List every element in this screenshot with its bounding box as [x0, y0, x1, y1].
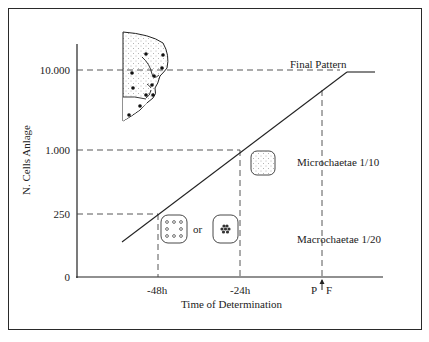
- reference-lines-vertical: [158, 90, 322, 277]
- y-tick-0: 0: [20, 271, 70, 283]
- chart-canvas: [0, 0, 429, 342]
- reference-lines-horizontal: [77, 70, 340, 214]
- macrochaetae-anlage-ring-icon: [161, 215, 187, 243]
- microchaetae-anlage-icon: [251, 151, 275, 175]
- x-tick-p: P: [311, 284, 317, 296]
- or-label: or: [193, 223, 202, 235]
- microchaetae-label: Microchaetae 1/10: [297, 156, 379, 168]
- x-tick-24h: -24h: [230, 284, 250, 296]
- final-pattern-label: Final Pattern: [290, 58, 347, 70]
- x-tick-48h: -48h: [147, 284, 167, 296]
- macrochaetae-anlage-cluster-icon: [213, 215, 238, 243]
- x-axis-label: Time of Determination: [181, 298, 282, 310]
- notum-drawing: [123, 32, 168, 121]
- y-axis-label: N. Cells Anlage: [20, 125, 32, 195]
- y-tick-250: 250: [20, 208, 70, 220]
- pf-arrow-icon: [320, 279, 325, 290]
- macrochaetae-label: Macrochaetae 1/20: [297, 233, 381, 245]
- y-tick-10000: 10.000: [20, 64, 70, 76]
- x-tick-f: F: [326, 284, 332, 296]
